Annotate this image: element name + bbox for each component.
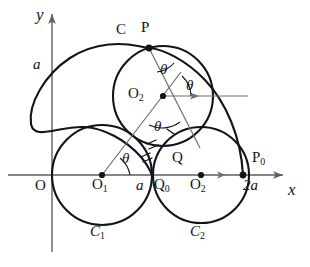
center-o2-lower-label-subscript: 2 <box>201 183 206 194</box>
distance-2a-label: 2a <box>243 178 258 193</box>
theta-at-o1: θ <box>122 151 129 166</box>
circle-c2-label-subscript: 2 <box>200 230 205 241</box>
circle-c1-label-subscript: 1 <box>100 230 105 241</box>
x-axis-label: x <box>288 181 296 198</box>
center-o1-label-base: O <box>92 176 103 192</box>
point-p-label: P <box>141 20 149 35</box>
center-o1-label-subscript: 1 <box>103 183 108 194</box>
point-q0-label-base: Q <box>154 176 165 192</box>
point-q0-label-subscript: 0 <box>165 183 170 194</box>
theta-at-o2-lower: θ <box>154 119 161 134</box>
circle-c1-label: C1 <box>90 224 105 241</box>
tick-e <box>167 129 174 134</box>
circle-c1-label-base: C <box>90 223 100 239</box>
marker-o2-upper <box>160 93 166 99</box>
point-q0-label: Q0 <box>154 177 170 194</box>
tick-a <box>147 140 156 144</box>
center-o1-label: O1 <box>92 177 108 194</box>
theta-at-p: θ <box>160 62 167 77</box>
circle-c2-label-base: C <box>190 223 200 239</box>
theta-at-o2-right: θ <box>186 78 193 93</box>
origin-label: O <box>35 178 46 193</box>
radius-a-label: a <box>33 57 41 72</box>
circle-c2-label: C2 <box>190 224 205 241</box>
center-o2-upper-label: O2 <box>128 86 144 103</box>
point-p0-label-subscript: 0 <box>260 156 265 167</box>
point-c-label: C <box>116 22 126 37</box>
center-o2-upper-label-base: O <box>128 85 139 101</box>
figure-canvas: yxOaCPQa2a O1O2O2Q0P0C1C2 θθθθ <box>0 0 310 267</box>
segment-a-label: a <box>136 178 144 193</box>
point-p0-label: P0 <box>252 150 265 167</box>
center-o2-lower-label-base: O <box>190 176 201 192</box>
center-o2-upper-label-subscript: 2 <box>139 92 144 103</box>
y-axis-label: y <box>36 6 44 23</box>
point-q-label: Q <box>172 150 183 165</box>
marker-p <box>146 45 153 52</box>
center-o2-lower-label: O2 <box>190 177 206 194</box>
